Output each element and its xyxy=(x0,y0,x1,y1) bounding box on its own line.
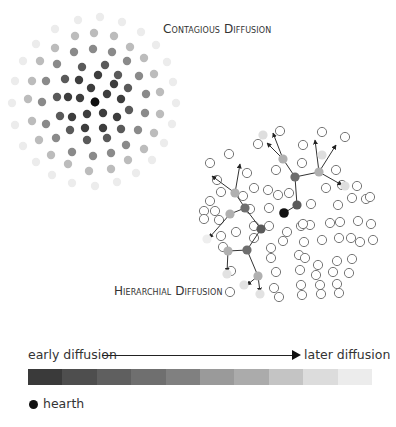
contagious-dot xyxy=(11,77,19,85)
legend-scale-segment xyxy=(338,369,372,385)
contagious-dot xyxy=(134,126,142,134)
diffusion-node xyxy=(202,234,211,243)
contagious-dot xyxy=(68,113,76,121)
open-circle xyxy=(205,158,214,167)
legend-scale-segment xyxy=(234,369,268,385)
open-circle xyxy=(365,192,374,201)
contagious-dot xyxy=(118,18,126,26)
contagious-diffusion-title: Contagious Diffusion xyxy=(163,22,271,36)
contagious-dot xyxy=(103,134,111,142)
legend-arrow-line xyxy=(102,355,297,356)
contagious-dot xyxy=(91,182,99,190)
contagious-dot xyxy=(47,151,55,159)
open-circle xyxy=(264,221,273,230)
contagious-dot xyxy=(160,139,168,147)
contagious-dot xyxy=(38,98,46,106)
open-circle xyxy=(321,183,330,192)
open-circle xyxy=(334,288,343,297)
contagious-dot xyxy=(124,156,132,164)
contagious-diffusion-cluster xyxy=(8,13,180,190)
open-circle xyxy=(340,132,349,141)
hierarchical-hearth xyxy=(279,208,289,218)
contagious-dot xyxy=(51,44,59,52)
open-circle xyxy=(317,235,326,244)
contagious-dot xyxy=(137,28,145,36)
contagious-dot xyxy=(48,171,56,179)
contagious-dot xyxy=(8,99,16,107)
contagious-dot xyxy=(24,95,32,103)
contagious-dot xyxy=(89,45,97,53)
open-circle xyxy=(328,267,337,276)
diffusion-node xyxy=(240,203,249,212)
hierarchical-diffusion-title: Hierarchial Diffusion xyxy=(114,284,223,298)
diffusion-diagram xyxy=(0,0,396,427)
contagious-dot xyxy=(141,109,149,117)
legend-scale-segment xyxy=(269,369,303,385)
open-circle xyxy=(274,292,283,301)
open-circle xyxy=(282,227,291,236)
legend-scale-segment xyxy=(97,369,131,385)
open-circle xyxy=(315,280,324,289)
contagious-hearth xyxy=(91,98,100,107)
open-circle xyxy=(271,165,280,174)
diffusion-node xyxy=(317,150,326,159)
open-circle xyxy=(298,140,307,149)
legend-scale-segment xyxy=(131,369,165,385)
open-circle xyxy=(300,253,309,262)
contagious-dot xyxy=(74,16,82,24)
contagious-dot xyxy=(126,43,134,51)
open-circle xyxy=(368,235,377,244)
diffusion-node xyxy=(222,269,231,278)
contagious-dot xyxy=(68,179,76,187)
contagious-dot xyxy=(123,57,131,65)
open-circle xyxy=(331,165,340,174)
open-circle xyxy=(306,199,315,208)
contagious-dot xyxy=(75,76,83,84)
diffusion-node xyxy=(223,246,232,255)
contagious-dot xyxy=(53,93,61,101)
contagious-dot xyxy=(132,169,140,177)
contagious-dot xyxy=(71,32,79,40)
legend-scale-segment xyxy=(28,369,62,385)
contagious-dot xyxy=(152,41,160,49)
contagious-dot xyxy=(94,71,102,79)
contagious-dot xyxy=(107,165,115,173)
contagious-dot xyxy=(135,72,143,80)
contagious-dot xyxy=(32,158,40,166)
open-circle xyxy=(344,268,353,277)
open-circle xyxy=(199,214,208,223)
contagious-dot xyxy=(99,124,107,132)
contagious-dot xyxy=(56,112,64,120)
contagious-dot xyxy=(83,136,91,144)
contagious-dot xyxy=(32,40,40,48)
contagious-dot xyxy=(42,120,50,128)
contagious-dot xyxy=(64,160,72,168)
open-circle xyxy=(366,219,375,228)
contagious-dot xyxy=(61,75,69,83)
diffusion-node xyxy=(239,280,248,289)
contagious-dot xyxy=(156,110,164,118)
diffusion-node xyxy=(230,188,239,197)
diffusion-node xyxy=(292,200,301,209)
legend-color-scale xyxy=(28,369,372,385)
diffusion-node xyxy=(255,289,264,298)
contagious-dot xyxy=(114,71,122,79)
open-circle xyxy=(335,217,344,226)
contagious-dot xyxy=(110,32,118,40)
open-circle xyxy=(332,279,341,288)
contagious-dot xyxy=(113,178,121,186)
open-circle xyxy=(355,237,364,246)
contagious-dot xyxy=(76,94,84,102)
contagious-dot xyxy=(70,48,78,56)
contagious-dot xyxy=(81,124,89,132)
contagious-dot xyxy=(87,84,95,92)
open-circle xyxy=(278,236,287,245)
open-circle xyxy=(346,233,355,242)
open-circle xyxy=(238,191,247,200)
contagious-dot xyxy=(113,113,121,121)
open-circle xyxy=(347,254,356,263)
open-circle xyxy=(299,237,308,246)
contagious-dot xyxy=(90,29,98,37)
open-circle xyxy=(224,149,233,158)
legend-later-label: later diffusion xyxy=(304,347,390,362)
